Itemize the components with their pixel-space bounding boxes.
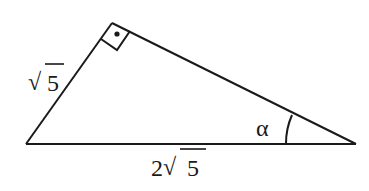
angle-arc (286, 115, 292, 144)
base-radicand: 5 (187, 155, 199, 181)
side-hypotenuse-top (112, 23, 356, 144)
right-angle-dot (114, 31, 119, 36)
angle-label-alpha: α (256, 115, 269, 141)
label-left-side: √ 5 (28, 64, 64, 96)
triangle-canvas: √ 5 2 √ 5 α (0, 0, 369, 191)
label-base: 2 √ 5 (151, 149, 206, 181)
base-coefficient: 2 (151, 155, 163, 181)
left-side-radicand: 5 (47, 70, 59, 96)
base-radical-sign: √ (163, 154, 177, 180)
right-triangle-diagram: √ 5 2 √ 5 α (0, 0, 369, 191)
left-side-radical-sign: √ (28, 69, 42, 95)
